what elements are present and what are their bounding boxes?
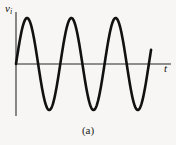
y-axis-subscript: i — [10, 7, 12, 16]
x-axis-label: t — [164, 63, 167, 74]
y-axis-label: vi — [5, 3, 12, 16]
figure-caption: (a) — [0, 124, 176, 136]
figure-container: vi t (a) — [0, 0, 176, 145]
waveform-plot — [0, 0, 176, 122]
